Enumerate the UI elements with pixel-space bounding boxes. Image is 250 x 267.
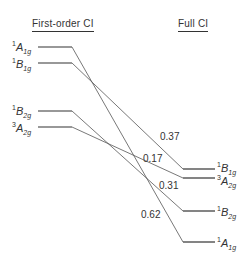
right-label-1A1g: 1A1g	[217, 234, 236, 254]
left-label-3A2g: 3A2g	[12, 119, 31, 139]
coefficient-3A2g: 0.17	[143, 153, 162, 164]
connector-1B2g	[72, 111, 183, 211]
right-label-3A2g: 3A2g	[217, 172, 236, 192]
correlation-diagram	[0, 0, 250, 267]
header-first-order-ci: First-order CI	[32, 18, 94, 32]
header-full-ci: Full CI	[178, 18, 208, 32]
coefficient-1A1g: 0.62	[141, 209, 160, 220]
left-label-1B1g: 1B1g	[12, 55, 31, 75]
connector-1B1g	[72, 63, 183, 169]
connector-1A1g	[72, 47, 183, 242]
coefficient-1B1g: 0.37	[160, 131, 179, 142]
right-label-1B2g: 1B2g	[217, 203, 236, 223]
coefficient-1B2g: 0.31	[159, 180, 178, 191]
